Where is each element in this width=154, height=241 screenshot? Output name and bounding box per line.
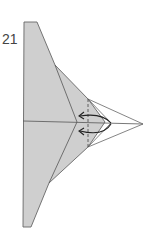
origami-diagram xyxy=(0,0,154,241)
paper-body xyxy=(23,22,105,227)
